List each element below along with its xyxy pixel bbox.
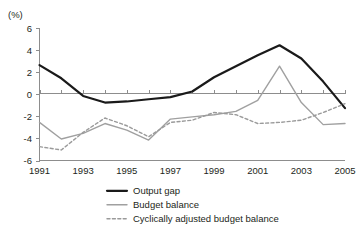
- x-tick-label: 2005: [334, 165, 355, 176]
- legend-label-2: Cyclically adjusted budget balance: [133, 213, 279, 224]
- y-tick-label: 2: [27, 67, 32, 78]
- series-line-1: [40, 66, 346, 140]
- y-axis-unit-label: (%): [8, 9, 23, 20]
- y-tick-label: 4: [27, 45, 32, 56]
- y-axis-tick-group: 6420-2-4-6: [24, 23, 40, 166]
- x-tick-label: 1997: [160, 165, 181, 176]
- figure-container: (%) 6420-2-4-6 1991199319951997199920012…: [0, 0, 358, 234]
- chart-legend: Output gapBudget balanceCyclically adjus…: [107, 185, 279, 224]
- x-tick-label: 1995: [116, 165, 137, 176]
- x-tick-label: 1993: [73, 165, 94, 176]
- legend-label-0: Output gap: [133, 185, 180, 196]
- x-tick-label: 1999: [204, 165, 225, 176]
- y-tick-label: 6: [27, 23, 32, 34]
- x-tick-label: 1991: [29, 165, 50, 176]
- line-chart: (%) 6420-2-4-6 1991199319951997199920012…: [0, 0, 358, 234]
- series-line-2: [40, 104, 346, 150]
- x-tick-label: 2003: [291, 165, 312, 176]
- x-tick-label: 2001: [247, 165, 268, 176]
- legend-label-1: Budget balance: [133, 199, 199, 210]
- y-tick-label: -2: [24, 111, 32, 122]
- x-axis-labels: 19911993199519971999200120032005: [29, 165, 356, 176]
- y-tick-label: -4: [24, 133, 32, 144]
- series-group: [40, 45, 346, 150]
- y-tick-label: 0: [27, 89, 32, 100]
